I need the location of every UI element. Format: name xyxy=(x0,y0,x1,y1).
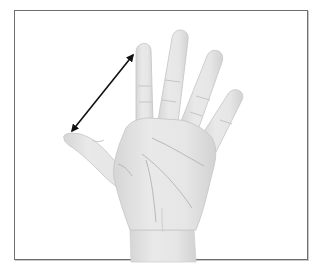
index-finger xyxy=(136,43,153,122)
middle-finger xyxy=(158,30,188,122)
span-arrow xyxy=(72,55,133,131)
wrist xyxy=(130,230,196,262)
hand-illustration xyxy=(0,0,317,269)
